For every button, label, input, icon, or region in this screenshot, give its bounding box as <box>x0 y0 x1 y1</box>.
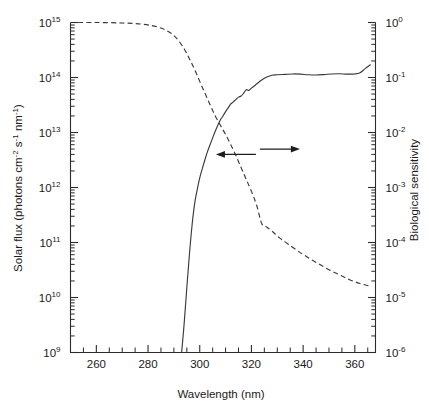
right-tick-label: 10-2 <box>386 125 406 139</box>
y-axis-right-title: Biological sensitivity <box>408 139 420 242</box>
x-tick-label: 260 <box>87 358 106 370</box>
right-tick-label: 100 <box>386 15 404 29</box>
axes-frame <box>71 23 376 353</box>
left-tick-label: 1014 <box>39 70 61 84</box>
x-axis-ticks <box>71 345 368 353</box>
x-tick-label: 280 <box>138 358 157 370</box>
y-axis-left-title: Solar flux (photons cm-2 s-1 nm-1) <box>11 104 25 272</box>
left-tick-label: 1013 <box>39 125 61 139</box>
solar-flux-biological-sensitivity-chart: 260280300320340360 101510141013101210111… <box>0 0 429 409</box>
right-tick-label: 10-1 <box>386 70 406 84</box>
left-tick-label: 1011 <box>39 235 61 249</box>
x-tick-label: 340 <box>294 358 313 370</box>
x-axis-title: Wavelength (nm) <box>177 388 264 400</box>
left-axis-ticks <box>71 23 79 353</box>
right-tick-label: 10-3 <box>386 180 406 194</box>
left-tick-label: 1012 <box>39 180 61 194</box>
x-tick-label: 360 <box>345 358 364 370</box>
right-tick-label: 10-4 <box>386 235 406 249</box>
right-axis-ticks <box>368 23 376 353</box>
solar-flux-curve <box>182 65 371 353</box>
left-tick-label: 109 <box>43 345 61 359</box>
left-tick-labels: 101510141013101210111010109 <box>39 15 61 359</box>
x-tick-label: 300 <box>190 358 209 370</box>
right-tick-labels: 10010-110-210-310-410-510-6 <box>386 15 406 359</box>
left-tick-label: 1010 <box>39 290 61 304</box>
x-tick-label: 320 <box>242 358 261 370</box>
x-tick-labels: 260280300320340360 <box>87 358 365 370</box>
axis-reference-arrows <box>216 146 300 158</box>
left-tick-label: 1015 <box>39 15 61 29</box>
right-tick-label: 10-6 <box>386 345 406 359</box>
right-tick-label: 10-5 <box>386 290 406 304</box>
figure-container: 260280300320340360 101510141013101210111… <box>0 0 429 409</box>
